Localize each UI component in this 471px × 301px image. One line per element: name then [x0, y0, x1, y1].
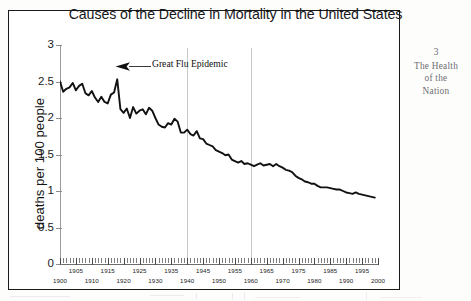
scan-artifact: [255, 297, 301, 298]
scanned-page: Causes of the Decline in Mortality in th…: [0, 0, 471, 301]
scan-artifact: [232, 293, 233, 300]
y-tick-label: 0.5: [18, 222, 54, 234]
y-tick-label: 2.5: [18, 76, 54, 88]
y-tick-label: 2: [18, 112, 54, 124]
running-head-line-2: of the: [425, 73, 448, 83]
scan-artifact: [150, 295, 184, 296]
x-tick-label: 1980: [307, 277, 321, 284]
y-tick-label: 1: [18, 185, 54, 197]
x-tick-label: 1940: [180, 277, 194, 284]
x-tick-label: 1925: [132, 267, 146, 274]
annotation-label: Great Flu Epidemic: [152, 58, 228, 69]
x-tick-label: 2000: [371, 277, 385, 284]
x-tick-label: 1935: [164, 267, 178, 274]
x-tick-label: 1990: [339, 277, 353, 284]
running-head-line-1: The Health: [414, 61, 458, 71]
chapter-number: 3: [404, 46, 468, 59]
x-tick-label: 1915: [101, 267, 115, 274]
annotation-leader-line: [129, 66, 151, 67]
y-tick-label: 3: [18, 39, 54, 51]
x-tick-label: 1985: [323, 267, 337, 274]
mortality-line-chart: [60, 45, 380, 266]
scan-artifact: [196, 293, 197, 299]
y-tick-label: 0: [18, 258, 54, 270]
chart-title: Causes of the Decline in Mortality in th…: [0, 6, 471, 22]
x-tick-label: 1960: [244, 277, 258, 284]
x-tick-label: 1955: [228, 267, 242, 274]
x-tick-label: 1905: [69, 267, 83, 274]
scan-artifact: [366, 292, 367, 300]
x-tick-label: 1930: [148, 277, 162, 284]
y-tick-label-group: 00.511.522.53: [8, 0, 54, 301]
y-tick-label: 1.5: [18, 149, 54, 161]
x-tick-label: 1910: [85, 277, 99, 284]
x-tick-label: 1950: [212, 277, 226, 284]
running-head-line-3: Nation: [423, 86, 450, 96]
arrow-left-icon: [113, 60, 131, 73]
scan-artifact: [244, 292, 245, 300]
x-tick-label: 1970: [276, 277, 290, 284]
running-head: 3 The Health of the Nation: [404, 46, 468, 97]
x-tick-label: 1975: [291, 267, 305, 274]
x-tick-label: 1945: [196, 267, 210, 274]
mortality-series-line: [60, 79, 375, 197]
x-tick-label: 1995: [355, 267, 369, 274]
x-tick-label: 1920: [117, 277, 131, 284]
x-tick-label: 1965: [260, 267, 274, 274]
x-tick-label: 1900: [53, 277, 67, 284]
scan-artifact: [380, 297, 422, 298]
